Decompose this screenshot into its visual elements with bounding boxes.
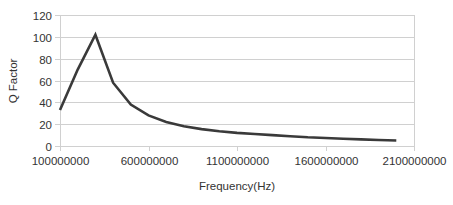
x-tick-label: 1100000000 bbox=[206, 155, 269, 167]
x-tick-label: 100000000 bbox=[32, 155, 90, 167]
y-tick-label: 0 bbox=[46, 141, 52, 153]
y-tick-label: 80 bbox=[39, 54, 52, 66]
y-tick-label: 100 bbox=[33, 32, 52, 44]
gridlines bbox=[55, 15, 415, 151]
x-axis-tick-labels: 1000000006000000001100000000160000000021… bbox=[32, 155, 447, 167]
x-axis-title: Frequency(Hz) bbox=[199, 180, 275, 192]
x-tick-label: 600000000 bbox=[121, 155, 179, 167]
x-tick-label: 2100000000 bbox=[383, 155, 447, 167]
y-tick-label: 60 bbox=[39, 76, 52, 88]
y-axis-tick-labels: 020406080100120 bbox=[33, 10, 52, 153]
y-tick-label: 120 bbox=[33, 10, 52, 22]
y-axis-title: Q Factor bbox=[7, 58, 19, 103]
y-tick-label: 20 bbox=[39, 119, 52, 131]
q-factor-line-chart: 020406080100120 100000000600000000110000… bbox=[0, 0, 453, 205]
y-tick-label: 40 bbox=[39, 97, 52, 109]
x-tick-label: 1600000000 bbox=[295, 155, 359, 167]
